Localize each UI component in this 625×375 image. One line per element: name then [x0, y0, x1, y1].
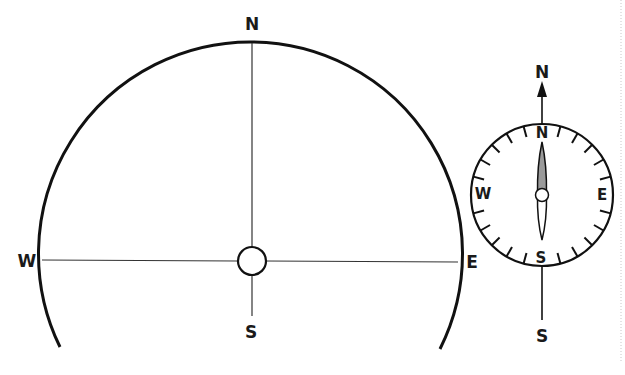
diagram-canvas: N S W E N S W E N S [0, 0, 625, 375]
needle-pivot [536, 189, 549, 202]
compass: N S W E N S [471, 62, 613, 346]
horizon-line-east [266, 261, 458, 262]
dial-label-north: N [536, 124, 549, 142]
label-north: N [245, 14, 259, 34]
label-east: E [466, 252, 478, 272]
north-arrow-icon [537, 81, 547, 97]
observer-marker [238, 247, 266, 275]
horizon-line-west [42, 260, 237, 261]
sky-dome-arc [38, 42, 462, 349]
label-west: W [18, 251, 37, 271]
label-south: S [245, 322, 257, 342]
sky-dome-diagram: N S W E [18, 14, 478, 349]
compass-outer-label-south: S [536, 326, 548, 346]
dial-label-west: W [475, 185, 492, 203]
compass-outer-label-north: N [535, 62, 549, 82]
dial-label-east: E [597, 186, 607, 204]
dial-label-south: S [536, 249, 547, 267]
